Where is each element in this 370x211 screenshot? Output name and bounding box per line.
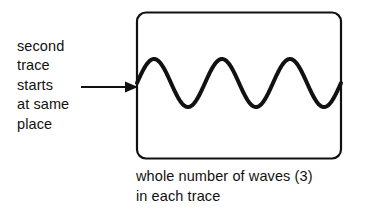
arrow-right-icon [80,76,140,98]
oscilloscope-screen [134,9,344,161]
annotation-line-5: place [17,115,127,134]
caption-line-2: in each trace [136,187,368,207]
figure-canvas: second trace starts at same place whole … [0,0,370,211]
annotation-line-2: trace [17,56,127,75]
annotation-line-1: second [17,37,127,56]
figure-caption: whole number of waves (3) in each trace [136,167,368,206]
caption-line-1: whole number of waves (3) [136,167,368,187]
annotation-line-4: at same [17,95,127,114]
